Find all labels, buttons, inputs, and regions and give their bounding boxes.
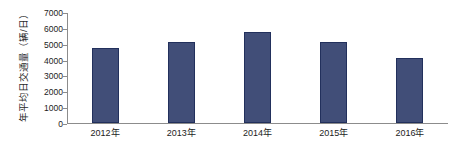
x-axis-tick-label: 2015年 [319,129,348,139]
x-axis-tick-label: 2012年 [91,129,120,139]
chart-screenshot: 年平均日交通量（辆/日） 010002000300040005000600070… [0,0,453,150]
y-axis-tick-mark [63,124,67,125]
plot-area [67,13,448,124]
y-axis-tick-label: 2000 [44,88,63,97]
y-axis-title-text: 年平均日交通量（辆/日） [18,10,28,123]
y-axis-tick-label: 3000 [44,72,63,81]
x-axis-tick-label: 2013年 [167,129,196,139]
y-axis-tick-label: 1000 [44,104,63,113]
y-axis-tick-label: 6000 [44,25,63,34]
x-axis-tick-label: 2014年 [243,129,272,139]
bar [396,58,423,123]
bar [244,32,271,123]
x-axis-tick-label: 2016年 [395,129,424,139]
bar [320,42,347,123]
bar [168,42,195,123]
y-axis-tick-label: 4000 [44,57,63,66]
x-axis-tick-labels: 2012年2013年2014年2015年2016年 [67,129,448,145]
y-axis-tick-labels: 01000200030004000500060007000 [30,8,64,129]
bar [92,48,119,123]
y-axis-tick-label: 5000 [44,41,63,50]
y-axis-tick-label: 7000 [44,9,63,18]
bar-series [67,13,448,124]
